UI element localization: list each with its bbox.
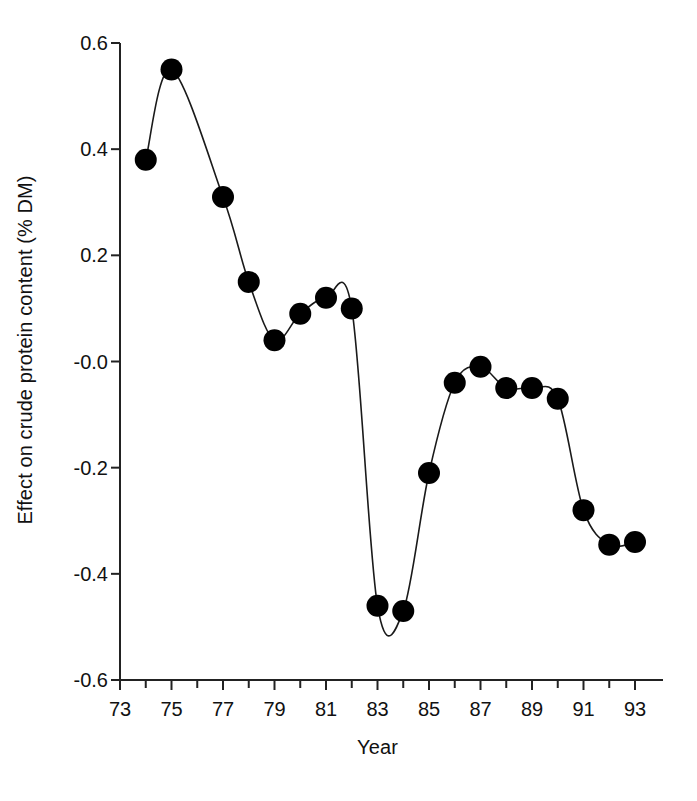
x-tick-label: 75 [160,698,182,721]
x-tick-label: 91 [572,698,594,721]
x-tick-label: 81 [315,698,337,721]
y-tick-label: 0.6 [40,32,108,55]
x-tick-label: 87 [469,698,491,721]
axes [111,43,663,690]
x-tick-label: 77 [212,698,234,721]
data-point-marker [161,59,183,81]
data-point-marker [341,297,363,319]
data-point-marker [470,356,492,378]
x-tick-label: 73 [109,698,131,721]
data-point-marker [624,531,646,553]
data-point-marker [547,388,569,410]
chart-figure: Effect on crude protein content (% DM) Y… [0,0,697,801]
data-point-marker [495,377,517,399]
data-series [135,59,646,636]
y-tick-label: 0.2 [40,244,108,267]
data-point-marker [598,534,620,556]
data-point-marker [444,372,466,394]
data-point-marker [135,149,157,171]
data-point-marker [264,329,286,351]
y-tick-label: 0.4 [40,138,108,161]
series-line [146,69,635,636]
y-tick-label: -0.4 [40,562,108,585]
y-tick-label: -0.6 [40,669,108,692]
x-tick-label: 85 [418,698,440,721]
y-tick-label: -0.2 [40,456,108,479]
data-point-marker [418,462,440,484]
x-tick-label: 93 [624,698,646,721]
data-point-marker [367,595,389,617]
data-point-marker [315,287,337,309]
data-point-marker [238,271,260,293]
data-point-marker [212,186,234,208]
x-tick-label: 79 [263,698,285,721]
y-tick-label: -0.0 [40,350,108,373]
data-point-marker [289,303,311,325]
data-point-marker [573,499,595,521]
data-point-marker [521,377,543,399]
data-point-marker [392,600,414,622]
x-tick-label: 83 [366,698,388,721]
x-tick-label: 89 [521,698,543,721]
